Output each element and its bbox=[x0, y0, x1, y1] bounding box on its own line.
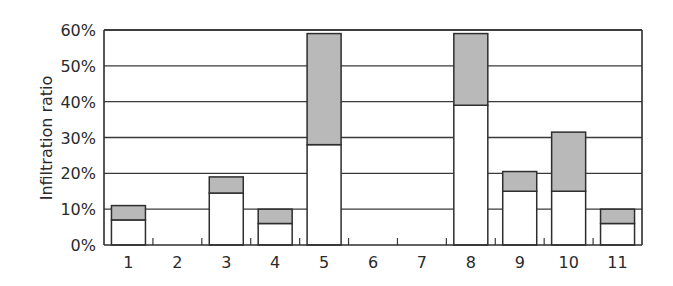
bar-lower-8 bbox=[454, 105, 488, 245]
bar-upper-1 bbox=[111, 206, 145, 220]
bar-upper-11 bbox=[601, 209, 635, 223]
bar-lower-4 bbox=[258, 224, 292, 246]
y-tick-label: 50% bbox=[60, 57, 96, 76]
x-tick-label: 4 bbox=[270, 253, 280, 272]
bar-upper-5 bbox=[307, 34, 341, 145]
y-tick-label: 30% bbox=[60, 129, 96, 148]
x-tick-label: 11 bbox=[607, 253, 627, 272]
bar-lower-3 bbox=[209, 193, 243, 245]
y-axis-label: Infiltration ratio bbox=[37, 76, 56, 201]
y-tick-label: 0% bbox=[71, 236, 96, 255]
bar-lower-9 bbox=[503, 191, 537, 245]
x-tick-label: 5 bbox=[319, 253, 329, 272]
x-tick-label: 6 bbox=[368, 253, 378, 272]
y-tick-label: 40% bbox=[60, 93, 96, 112]
bar-lower-11 bbox=[601, 224, 635, 246]
x-tick-label: 3 bbox=[221, 253, 231, 272]
bar-upper-9 bbox=[503, 172, 537, 192]
bar-lower-10 bbox=[552, 191, 586, 245]
x-tick-label: 2 bbox=[172, 253, 182, 272]
y-tick-label: 10% bbox=[60, 200, 96, 219]
bar-lower-1 bbox=[111, 220, 145, 245]
bar-upper-8 bbox=[454, 34, 488, 106]
x-tick-label: 9 bbox=[515, 253, 525, 272]
y-tick-labels: 0%10%20%30%40%50%60% bbox=[60, 21, 96, 255]
x-tick-label: 10 bbox=[558, 253, 578, 272]
bar-upper-10 bbox=[552, 132, 586, 191]
x-tick-label: 1 bbox=[123, 253, 133, 272]
bar-lower-5 bbox=[307, 145, 341, 245]
y-tick-label: 60% bbox=[60, 21, 96, 40]
x-tick-labels: 1234567891011 bbox=[123, 253, 627, 272]
bar-upper-3 bbox=[209, 177, 243, 193]
x-tick-label: 8 bbox=[466, 253, 476, 272]
x-tick-label: 7 bbox=[417, 253, 427, 272]
stacked-bar-chart: 0%10%20%30%40%50%60% 1234567891011 Infil… bbox=[0, 0, 673, 286]
y-tick-label: 20% bbox=[60, 164, 96, 183]
bar-upper-4 bbox=[258, 209, 292, 223]
